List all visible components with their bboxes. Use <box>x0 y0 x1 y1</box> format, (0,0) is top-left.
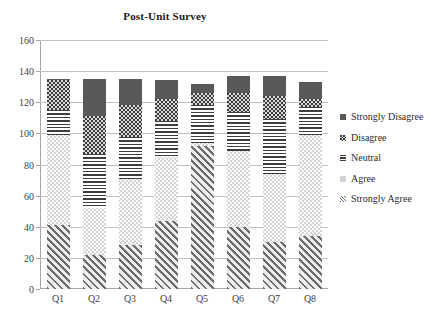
bar-segment-neutral <box>299 107 322 135</box>
legend-swatch-icon <box>340 196 346 202</box>
bar-segment-strongly-agree <box>47 225 70 289</box>
x-tick-label: Q2 <box>88 293 100 304</box>
bar-stack <box>83 40 106 289</box>
legend-swatch-icon <box>340 155 346 161</box>
bar-segment-disagree <box>83 116 106 153</box>
bar-segment-strongly-disagree <box>263 76 286 96</box>
bar-segment-agree <box>119 179 142 246</box>
bar-segment-strongly-agree <box>191 146 214 289</box>
legend-item[interactable]: Neutral <box>340 152 440 164</box>
bar-stack <box>155 40 178 289</box>
legend-label: Strongly Agree <box>351 193 412 205</box>
y-tick-label: 140 <box>19 66 34 77</box>
legend-label: Strongly Disagree <box>351 111 424 123</box>
y-tick-mark <box>36 289 40 290</box>
bar-segment-strongly-disagree <box>227 76 250 93</box>
bar-segment-disagree <box>155 99 178 121</box>
legend-label: Agree <box>351 173 375 185</box>
y-tick-label: 100 <box>19 128 34 139</box>
bar-segment-neutral <box>119 137 142 179</box>
bar-segment-agree <box>191 143 214 146</box>
x-tick-label: Q8 <box>304 293 316 304</box>
bar-segment-strongly-agree <box>227 227 250 289</box>
legend-item[interactable]: Agree <box>340 173 440 185</box>
x-tick-label: Q3 <box>124 293 136 304</box>
bar-segment-agree <box>263 174 286 242</box>
bar-series-layer <box>40 40 328 289</box>
bar-segment-disagree <box>299 99 322 107</box>
bar-segment-disagree <box>119 105 142 136</box>
bar-segment-agree <box>227 151 250 227</box>
bar-segment-strongly-disagree <box>47 79 70 81</box>
plot-area: 020406080100120140160 Q1Q2Q3Q4Q5Q6Q7Q8 <box>40 40 328 289</box>
bar-segment-strongly-disagree <box>155 80 178 99</box>
bar-segment-strongly-disagree <box>299 82 322 99</box>
bar-segment-neutral <box>191 105 214 142</box>
y-tick-label: 0 <box>29 284 34 295</box>
bar-segment-agree <box>299 135 322 236</box>
bar-stack <box>47 40 70 289</box>
bar-segment-strongly-agree <box>119 245 142 289</box>
bar-segment-strongly-agree <box>263 242 286 289</box>
x-tick-label: Q7 <box>268 293 280 304</box>
y-tick-label: 60 <box>24 190 34 201</box>
bar-segment-neutral <box>83 154 106 208</box>
bar-segment-strongly-agree <box>83 255 106 289</box>
bar-segment-strongly-disagree <box>83 79 106 116</box>
bar-segment-disagree <box>227 93 250 112</box>
y-tick-label: 120 <box>19 97 34 108</box>
x-tick-label: Q1 <box>52 293 64 304</box>
x-tick-label: Q5 <box>196 293 208 304</box>
bar-segment-strongly-agree <box>299 236 322 289</box>
bar-segment-disagree <box>47 80 70 110</box>
legend-swatch-icon <box>340 176 346 182</box>
chart-container: Post-Unit Survey 020406080100120140160 Q… <box>0 0 440 317</box>
legend-swatch-icon <box>340 114 346 120</box>
bar-stack <box>227 40 250 289</box>
bar-segment-agree <box>47 135 70 225</box>
y-tick-label: 80 <box>24 159 34 170</box>
bar-segment-disagree <box>191 93 214 105</box>
bar-stack <box>191 40 214 289</box>
bar-segment-neutral <box>263 119 286 173</box>
bar-segment-neutral <box>155 121 178 157</box>
chart-legend: Strongly DisagreeDisagreeNeutralAgreeStr… <box>340 111 440 214</box>
bar-segment-agree <box>155 157 178 221</box>
legend-swatch-icon <box>340 135 346 141</box>
legend-label: Disagree <box>351 132 387 144</box>
y-tick-label: 20 <box>24 252 34 263</box>
legend-label: Neutral <box>351 152 381 164</box>
chart-title: Post-Unit Survey <box>0 10 330 22</box>
legend-item[interactable]: Strongly Agree <box>340 193 440 205</box>
bar-segment-disagree <box>263 96 286 119</box>
bar-segment-strongly-agree <box>155 221 178 289</box>
legend-item[interactable]: Disagree <box>340 132 440 144</box>
bar-stack <box>299 40 322 289</box>
bar-segment-strongly-disagree <box>119 79 142 105</box>
bar-segment-neutral <box>47 110 70 135</box>
y-tick-label: 40 <box>24 221 34 232</box>
bar-segment-neutral <box>227 112 250 151</box>
bar-stack <box>119 40 142 289</box>
bar-stack <box>263 40 286 289</box>
x-tick-label: Q6 <box>232 293 244 304</box>
bar-segment-strongly-disagree <box>191 84 214 93</box>
legend-item[interactable]: Strongly Disagree <box>340 111 440 123</box>
y-tick-label: 160 <box>19 35 34 46</box>
x-tick-label: Q4 <box>160 293 172 304</box>
bar-segment-agree <box>83 208 106 255</box>
